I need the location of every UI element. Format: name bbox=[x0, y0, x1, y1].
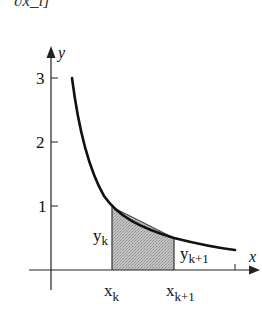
diagram: 3 2 1 y x yk yk+1 xk xk+1 bbox=[0, 0, 262, 331]
y-axis-arrow-icon bbox=[47, 46, 56, 58]
x-axis-arrow-icon bbox=[249, 266, 260, 275]
tick-label-2: 2 bbox=[36, 133, 45, 152]
xk-label: xk bbox=[104, 281, 120, 304]
x-axis-label: x bbox=[248, 248, 256, 265]
tick-label-3: 3 bbox=[36, 69, 45, 88]
yk1-label: yk+1 bbox=[180, 244, 209, 266]
y-axis-label: y bbox=[56, 44, 66, 62]
curve bbox=[72, 78, 235, 250]
xk1-label: xk+1 bbox=[166, 281, 195, 304]
shaded-trapezoid bbox=[112, 207, 174, 270]
tick-label-1: 1 bbox=[38, 197, 47, 216]
yk-label: yk bbox=[93, 226, 109, 248]
